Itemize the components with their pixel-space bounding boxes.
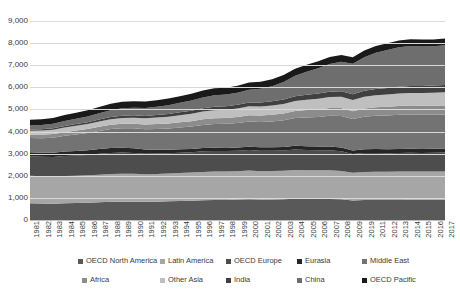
y-axis-tick-label: 4,000 (8, 128, 28, 136)
gridline (30, 65, 445, 66)
legend-item[interactable]: OECD Pacific (362, 276, 416, 284)
x-axis-tick-label: 2013 (402, 221, 410, 238)
x-axis-tick-label: 1993 (172, 221, 180, 238)
x-axis-tick-label: 1988 (114, 221, 122, 238)
gridline (30, 132, 445, 133)
x-axis-tick-label: 2007 (333, 221, 341, 238)
legend-swatch-icon (226, 259, 231, 264)
x-axis-tick-label: 1986 (91, 221, 99, 238)
legend-item[interactable]: Eurasia (297, 257, 330, 265)
x-axis-tick-label: 1996 (206, 221, 214, 238)
legend-swatch-icon (160, 278, 165, 283)
x-axis-tick-label: 1981 (33, 221, 41, 238)
legend-item[interactable]: Middle East (362, 257, 409, 265)
x-axis-tick-label: 1983 (56, 221, 64, 238)
x-axis-tick-label: 2000 (252, 221, 260, 238)
x-axis-tick-label: 1985 (79, 221, 87, 238)
x-axis-tick-label: 1987 (102, 221, 110, 238)
legend-item[interactable]: Other Asia (160, 276, 203, 284)
gridline (30, 43, 445, 44)
y-axis-tick-label: 3,000 (8, 150, 28, 158)
plot-area (30, 21, 445, 220)
gridline (30, 21, 445, 22)
legend-label: China (305, 276, 325, 284)
x-axis-tick-label: 2014 (414, 221, 422, 238)
x-axis-tick-label: 2017 (448, 221, 456, 238)
x-axis-tick-label: 2008 (344, 221, 352, 238)
gridline (30, 198, 445, 199)
y-axis-tick-label: 1,000 (8, 194, 28, 202)
legend-swatch-icon (297, 278, 302, 283)
x-axis-tick-label: 1994 (183, 221, 191, 238)
legend-swatch-icon (82, 278, 87, 283)
y-axis-tick-label: 5,000 (8, 105, 28, 113)
x-axis-labels: 1981198219831984198519861987198819891990… (30, 221, 445, 255)
x-axis-tick-label: 1992 (160, 221, 168, 238)
x-axis-tick-label: 2011 (379, 221, 387, 237)
x-axis-tick-label: 2015 (425, 221, 433, 238)
legend-item[interactable]: OECD Europe (226, 257, 282, 265)
x-axis-tick-label: 1984 (68, 221, 76, 238)
legend-swatch-icon (160, 259, 165, 264)
legend-row: OECD North AmericaLatin AmericaOECD Euro… (0, 257, 460, 271)
y-axis-tick-label: 8,000 (8, 39, 28, 47)
gridline (30, 176, 445, 177)
legend-item[interactable]: Latin America (160, 257, 213, 265)
x-axis-tick-label: 1998 (229, 221, 237, 238)
legend-label: India (234, 276, 250, 284)
area-series-layer (30, 21, 445, 220)
legend-row: AfricaOther AsiaIndiaChinaOECD Pacific (0, 276, 460, 290)
x-axis-tick-label: 2004 (298, 221, 306, 238)
legend-label: Africa (90, 276, 109, 284)
gridline (30, 154, 445, 155)
legend-label: OECD Europe (234, 257, 282, 265)
x-axis-tick-label: 2016 (437, 221, 445, 238)
x-axis-tick-label: 2009 (356, 221, 364, 238)
legend-item[interactable]: China (297, 276, 325, 284)
y-axis-tick-label: 6,000 (8, 83, 28, 91)
legend-label: Eurasia (305, 257, 330, 265)
gridline (30, 87, 445, 88)
legend-item[interactable]: Africa (82, 276, 109, 284)
x-axis-tick-label: 2003 (287, 221, 295, 238)
legend-swatch-icon (297, 259, 302, 264)
legend-swatch-icon (226, 278, 231, 283)
legend-label: Middle East (370, 257, 409, 265)
y-axis-tick-label: 9,000 (8, 17, 28, 25)
x-axis-tick-label: 2012 (391, 221, 399, 238)
x-axis-tick-label: 1991 (148, 221, 156, 238)
stacked-area-chart: 01,0002,0003,0004,0005,0006,0007,0008,00… (0, 0, 460, 301)
y-axis: 01,0002,0003,0004,0005,0006,0007,0008,00… (0, 0, 28, 240)
y-axis-tick-label: 0 (24, 216, 28, 224)
x-axis-tick-label: 1997 (218, 221, 226, 238)
legend-swatch-icon (362, 278, 367, 283)
y-axis-tick-label: 7,000 (8, 61, 28, 69)
legend-label: OECD Pacific (370, 276, 416, 284)
legend-swatch-icon (78, 259, 83, 264)
x-axis-tick-label: 1982 (45, 221, 53, 238)
legend-swatch-icon (362, 259, 367, 264)
y-axis-tick-label: 2,000 (8, 172, 28, 180)
legend-label: Other Asia (168, 276, 203, 284)
x-axis-tick-label: 2006 (321, 221, 329, 238)
chart-legend: OECD North AmericaLatin AmericaOECD Euro… (0, 257, 460, 301)
x-axis-tick-label: 1995 (195, 221, 203, 238)
x-axis-tick-label: 1989 (125, 221, 133, 238)
gridline (30, 109, 445, 110)
x-axis-tick-label: 1999 (241, 221, 249, 238)
x-axis-tick-label: 2001 (264, 221, 272, 238)
x-axis-tick-label: 2002 (275, 221, 283, 238)
legend-label: Latin America (168, 257, 213, 265)
x-axis-tick-label: 2005 (310, 221, 318, 238)
x-axis-tick-label: 1990 (137, 221, 145, 238)
legend-item[interactable]: OECD North America (78, 257, 157, 265)
x-axis-tick-label: 2019 (368, 221, 376, 238)
legend-label: OECD North America (86, 257, 157, 265)
legend-item[interactable]: India (226, 276, 250, 284)
